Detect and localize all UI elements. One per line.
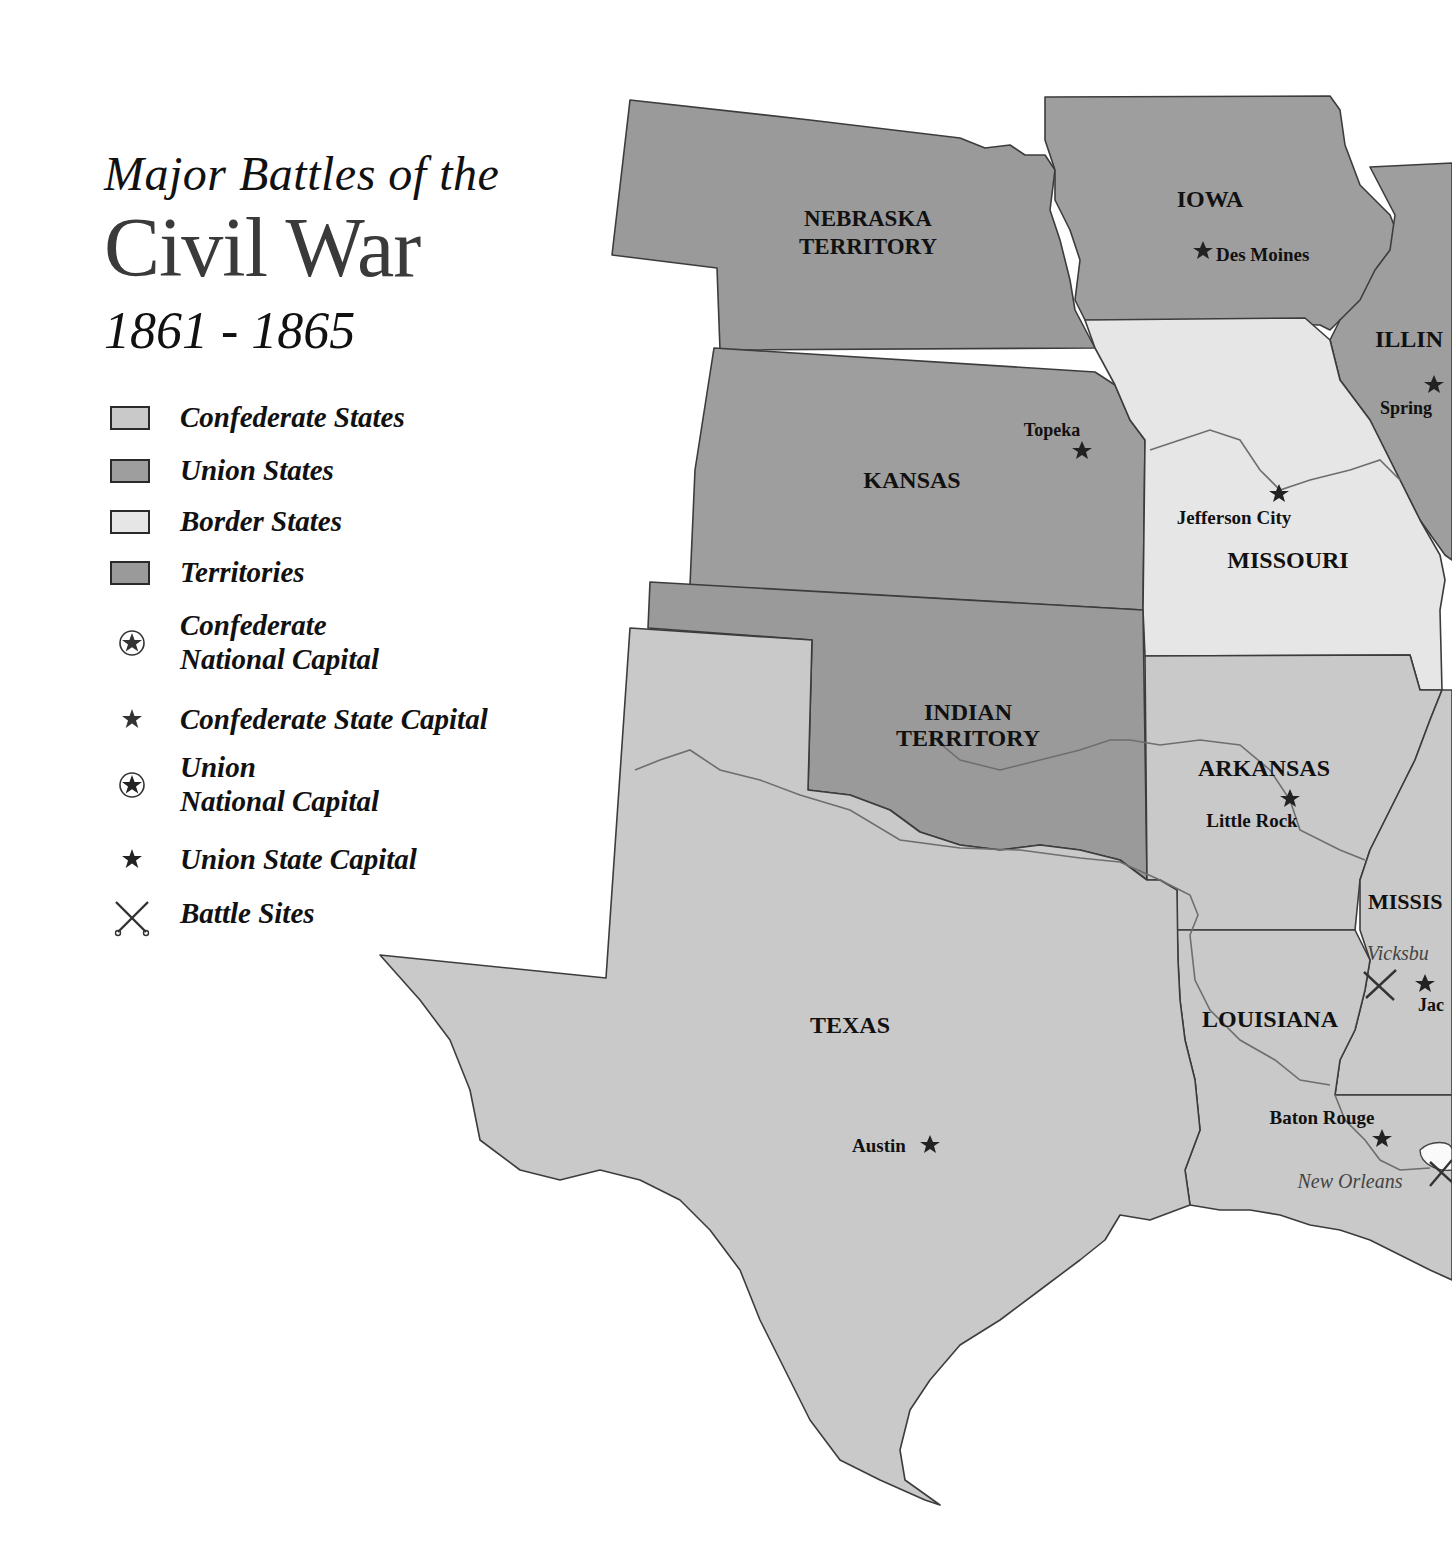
label-indian-2: TERRITORY <box>896 725 1040 751</box>
label-mississippi: MISSIS <box>1368 889 1443 914</box>
label-jefferson-city: Jefferson City <box>1177 507 1292 528</box>
label-louisiana: LOUISIANA <box>1202 1006 1339 1032</box>
label-vicksburg: Vicksbu <box>1367 942 1429 964</box>
label-nebraska: NEBRASKA <box>804 206 932 231</box>
label-little-rock: Little Rock <box>1206 810 1298 831</box>
label-nebraska-2: TERRITORY <box>799 234 937 259</box>
label-iowa: IOWA <box>1177 186 1244 212</box>
label-texas: TEXAS <box>810 1012 890 1038</box>
map: NEBRASKA TERRITORY IOWA ILLIN KANSAS MIS… <box>0 0 1452 1561</box>
label-illinois: ILLIN <box>1375 326 1444 352</box>
label-new-orleans: New Orleans <box>1297 1170 1403 1192</box>
label-springfield: Spring <box>1380 398 1432 418</box>
label-austin: Austin <box>852 1135 906 1156</box>
label-jackson: Jac <box>1418 995 1444 1015</box>
label-arkansas: ARKANSAS <box>1198 755 1330 781</box>
label-des-moines: Des Moines <box>1216 244 1309 265</box>
label-baton-rouge: Baton Rouge <box>1269 1107 1374 1128</box>
label-missouri: MISSOURI <box>1227 547 1348 573</box>
label-indian: INDIAN <box>924 699 1013 725</box>
label-topeka: Topeka <box>1024 420 1080 440</box>
label-kansas: KANSAS <box>863 467 960 493</box>
region-iowa <box>1045 96 1400 330</box>
